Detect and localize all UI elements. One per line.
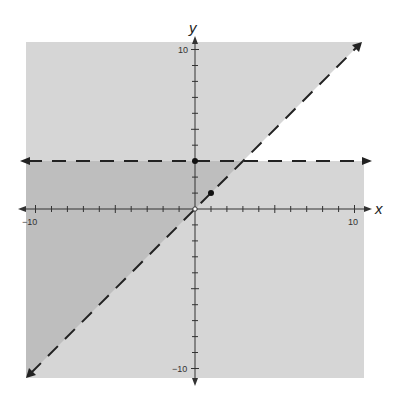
line-y3-right-arrow-icon [362,157,372,165]
inequality-graph: −10 10 10 −10 x y [0,0,398,410]
y-axis-up-arrow-icon [192,36,198,44]
x-min-label: −10 [22,217,37,227]
y-axis-label: y [188,19,198,36]
x-axis-left-arrow-icon [18,206,26,212]
x-axis-label: x [374,200,383,217]
x-axis-right-arrow-icon [364,206,372,212]
point-1-2 [208,190,214,196]
point-origin [193,207,197,211]
y-max-label: 10 [178,45,188,55]
point-0-3 [192,158,198,164]
y-axis-down-arrow-icon [192,378,198,386]
y-min-label: −10 [172,364,187,374]
x-max-label: 10 [348,217,358,227]
line-y3-left-arrow-icon [20,157,30,165]
